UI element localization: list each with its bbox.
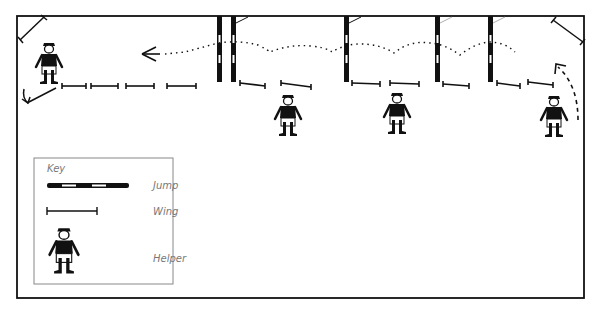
- key-label-wing: Wing: [153, 206, 178, 217]
- corner-wing-bottom-left: [22, 88, 56, 103]
- corner-wing-left: [18, 15, 47, 43]
- key-jump-symbol: [47, 183, 129, 188]
- helper-figure-2: [275, 95, 301, 136]
- jump-219: [217, 16, 222, 82]
- key-label-helper: Helper: [153, 253, 187, 264]
- key-legend: Key Jump Wing Helper: [34, 158, 187, 284]
- helper-figure-1: [36, 43, 62, 84]
- jump-233: [231, 16, 248, 82]
- key-label-jump: Jump: [151, 180, 178, 191]
- jump-437: [435, 16, 452, 82]
- arena-diagram: Key Jump Wing Helper: [0, 0, 601, 312]
- jump-346: [344, 16, 361, 82]
- jump-490: [488, 16, 505, 82]
- helper-figure-3: [384, 93, 410, 134]
- key-heading: Key: [47, 163, 66, 174]
- wings-row: [62, 79, 553, 90]
- helper-figure-4: [541, 96, 567, 137]
- corner-wing-right: [551, 17, 585, 45]
- arrow-left-icon: [142, 47, 160, 61]
